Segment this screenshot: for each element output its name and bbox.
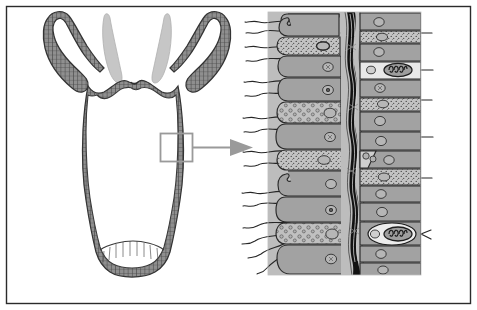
gastrodermis-layer xyxy=(276,14,349,274)
magnified-body-wall-detail xyxy=(242,12,433,276)
nematocyst-capsule-1 xyxy=(384,63,412,76)
body-column-wall xyxy=(82,81,183,278)
epidermis-layer xyxy=(360,13,421,276)
nematocyst-capsule-2 xyxy=(384,227,412,241)
figure-canvas: Hydra body wall structure with magnified… xyxy=(0,0,477,310)
hydra-body-wall-figure: Hydra body wall structure with magnified… xyxy=(0,0,477,310)
